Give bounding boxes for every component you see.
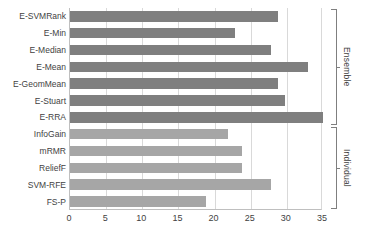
x-axis-tick-20: 20 (202, 212, 226, 224)
bar-chart: E-SVMRankE-MinE-MedianE-MeanE-GeomMeanE-… (0, 0, 369, 236)
bar-mrmr (70, 146, 242, 157)
bracket-ensemble (331, 9, 337, 125)
y-axis-label: ReliefF (39, 163, 66, 173)
bar-row (70, 126, 321, 143)
y-axis-label: SVM-RFE (28, 180, 66, 190)
y-axis-labels: E-SVMRankE-MinE-MedianE-MeanE-GeomMeanE-… (0, 8, 66, 210)
bar-svm-rfe (70, 179, 271, 190)
bracket-label-ensemble: Ensemble (340, 9, 354, 125)
bar-fs-p (70, 196, 206, 207)
y-axis-label: FS-P (47, 197, 66, 207)
y-axis-label: E-Stuart (35, 96, 66, 106)
x-axis-tick-15: 15 (165, 212, 189, 224)
bar-row (70, 92, 321, 109)
x-axis-tick-10: 10 (129, 212, 153, 224)
y-axis-label: E-SVMRank (19, 11, 66, 21)
bar-e-min (70, 28, 235, 39)
x-axis-tick-5: 5 (93, 212, 117, 224)
bar-e-geommean (70, 78, 278, 89)
plot-area (69, 8, 322, 210)
x-axis-tick-0: 0 (57, 212, 81, 224)
y-axis-label: E-RRA (40, 112, 66, 122)
bar-row (70, 42, 321, 59)
y-axis-label: InfoGain (34, 129, 66, 139)
bracket-label-individual: Individual (340, 127, 354, 209)
y-axis-label: E-Mean (36, 62, 66, 72)
bar-e-mean (70, 62, 308, 73)
y-axis-label: E-GeomMean (13, 79, 66, 89)
bar-row (70, 59, 321, 76)
bar-row (70, 176, 321, 193)
y-axis-label: E-Median (30, 45, 66, 55)
y-axis-label: mRMR (40, 146, 66, 156)
bar-e-rra (70, 112, 323, 123)
bar-rows (70, 8, 321, 209)
bar-e-stuart (70, 95, 285, 106)
bar-row (70, 25, 321, 42)
x-axis-tick-35: 35 (310, 212, 334, 224)
bar-infogain (70, 129, 228, 140)
bracket-individual (331, 127, 337, 209)
bar-row (70, 160, 321, 177)
bar-row (70, 8, 321, 25)
bar-row (70, 75, 321, 92)
bar-row (70, 109, 321, 126)
bar-row (70, 193, 321, 210)
x-axis-tick-25: 25 (238, 212, 262, 224)
x-axis-tick-30: 30 (274, 212, 298, 224)
y-axis-label: E-Min (44, 28, 66, 38)
x-axis-labels: 05101520253035 (0, 212, 369, 226)
bar-relieff (70, 163, 242, 174)
bar-row (70, 143, 321, 160)
bar-e-svmrank (70, 11, 278, 22)
bar-e-median (70, 45, 271, 56)
